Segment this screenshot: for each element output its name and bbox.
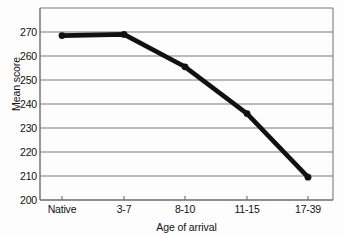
data-point-11-15 xyxy=(244,110,251,117)
data-point-3-7 xyxy=(121,31,128,38)
x-tick-label-8-10: 8-10 xyxy=(150,203,220,215)
x-tick-label-11-15: 11-15 xyxy=(212,203,282,215)
x-axis-title: Age of arrival xyxy=(40,221,333,233)
data-point-17-39 xyxy=(305,174,312,181)
x-tick-label-3-7: 3-7 xyxy=(89,203,159,215)
data-point-8-10 xyxy=(182,63,189,70)
line-chart: Mean score 200 210 220 230 240 250 260 2… xyxy=(0,0,344,238)
x-tick-label-native: Native xyxy=(27,203,97,215)
data-point-native xyxy=(59,32,66,39)
data-markers xyxy=(59,31,312,181)
x-tick-label-17-39: 17-39 xyxy=(273,203,343,215)
